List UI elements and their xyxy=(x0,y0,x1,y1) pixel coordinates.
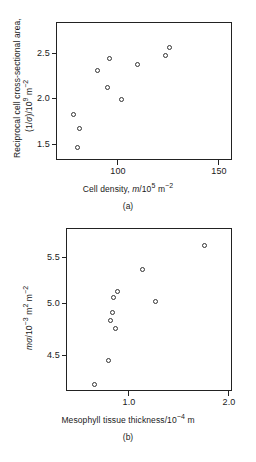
panel-b: 5.5 5.0 4.5 1.0 2.0 mσ/10−3 m2 m−2 Mesop… xyxy=(0,225,256,462)
x-axis-title-a: Cell density, m/105 m−2 xyxy=(0,184,256,194)
y-axis-title-b-exp3: −2 xyxy=(22,286,29,294)
x-axis-title-a-unit: m xyxy=(155,184,165,194)
y-axis-title-b-mid: /10 xyxy=(24,325,34,337)
x-tick-b-0 xyxy=(128,391,129,396)
y-tick-a-0 xyxy=(52,53,57,54)
m-symbol: m xyxy=(24,343,34,350)
data-point xyxy=(113,326,118,331)
x-axis-title-a-pre: Cell density, xyxy=(83,184,132,194)
y-axis-title-a-line2: (1/σ)/109 m−2 xyxy=(24,80,34,132)
x-tick-label-b-0: 1.0 xyxy=(116,397,142,407)
sigma-symbol: σ xyxy=(24,338,34,343)
plot-area-b xyxy=(66,228,232,391)
data-point xyxy=(75,145,80,150)
data-point xyxy=(167,45,172,50)
data-point xyxy=(95,68,100,73)
panel-caption-b: (b) xyxy=(0,432,256,442)
data-point xyxy=(111,295,116,300)
x-axis-title-b-exp: −4 xyxy=(177,413,185,420)
data-point xyxy=(140,267,145,272)
y-tick-label-a-0: 2.5 xyxy=(22,48,50,58)
y-tick-b-1 xyxy=(62,303,67,304)
x-tick-a-0 xyxy=(117,160,118,165)
x-tick-label-a-0: 100 xyxy=(105,166,131,176)
y-axis-title-b-unit1: m xyxy=(24,308,34,318)
y-tick-label-b-0: 5.5 xyxy=(32,252,60,262)
y-axis-title-b-unit2: m xyxy=(24,294,34,304)
sigma-symbol: σ xyxy=(24,117,34,122)
y-axis-title-a-exp1: 9 xyxy=(22,97,29,101)
data-point xyxy=(119,97,124,102)
y-tick-label-a-2: 1.5 xyxy=(22,139,50,149)
y-axis-title-b: mσ/10−3 m2 m−2 xyxy=(24,286,34,350)
data-point xyxy=(153,299,158,304)
y-axis-title-a-unit: m xyxy=(24,88,34,98)
data-point xyxy=(92,382,97,387)
y-axis-title-a-exp2: −2 xyxy=(22,80,29,88)
y-axis-title-a-pre: (1/ xyxy=(24,122,34,132)
panel-a: 2.5 2.0 1.5 100 150 Reciprocal cell cros… xyxy=(0,0,256,231)
y-tick-a-1 xyxy=(52,98,57,99)
x-axis-title-b: Mesophyll tissue thickness/10−4 m xyxy=(0,415,256,425)
data-point xyxy=(163,53,168,58)
plot-area-a xyxy=(56,22,232,160)
data-point xyxy=(115,289,120,294)
data-point xyxy=(110,310,115,315)
y-tick-label-b-1: 5.0 xyxy=(32,298,60,308)
y-axis-title-a-line1: Reciprocal cell cross-sectional area, xyxy=(12,18,22,158)
data-point xyxy=(77,126,82,131)
x-tick-b-1 xyxy=(228,391,229,396)
y-axis-title-b-exp1: −3 xyxy=(22,317,29,325)
x-tick-a-1 xyxy=(218,160,219,165)
x-tick-label-a-1: 150 xyxy=(206,166,232,176)
data-point xyxy=(106,358,111,363)
data-point xyxy=(135,62,140,67)
y-axis-title-b-exp2: 2 xyxy=(22,304,29,308)
x-axis-title-a-mid: /10 xyxy=(139,184,151,194)
x-axis-title-b-pre: Mesophyll tissue thickness/10 xyxy=(61,415,176,425)
x-tick-label-b-1: 2.0 xyxy=(216,397,242,407)
data-point xyxy=(202,243,207,248)
y-tick-label-b-2: 4.5 xyxy=(32,350,60,360)
y-tick-b-0 xyxy=(62,257,67,258)
figure-container: 2.5 2.0 1.5 100 150 Reciprocal cell cros… xyxy=(0,0,256,462)
y-axis-title-a-text: Reciprocal cell cross-sectional area, xyxy=(12,18,22,158)
panel-caption-a: (a) xyxy=(0,201,256,211)
x-axis-title-b-unit: m xyxy=(185,415,195,425)
y-tick-b-2 xyxy=(62,355,67,356)
y-tick-a-2 xyxy=(52,144,57,145)
data-point xyxy=(105,85,110,90)
x-axis-title-a-exp2: −2 xyxy=(165,182,173,189)
data-point xyxy=(107,56,112,61)
data-point xyxy=(71,112,76,117)
y-axis-title-a-post: )/10 xyxy=(24,101,34,116)
data-point xyxy=(108,318,113,323)
